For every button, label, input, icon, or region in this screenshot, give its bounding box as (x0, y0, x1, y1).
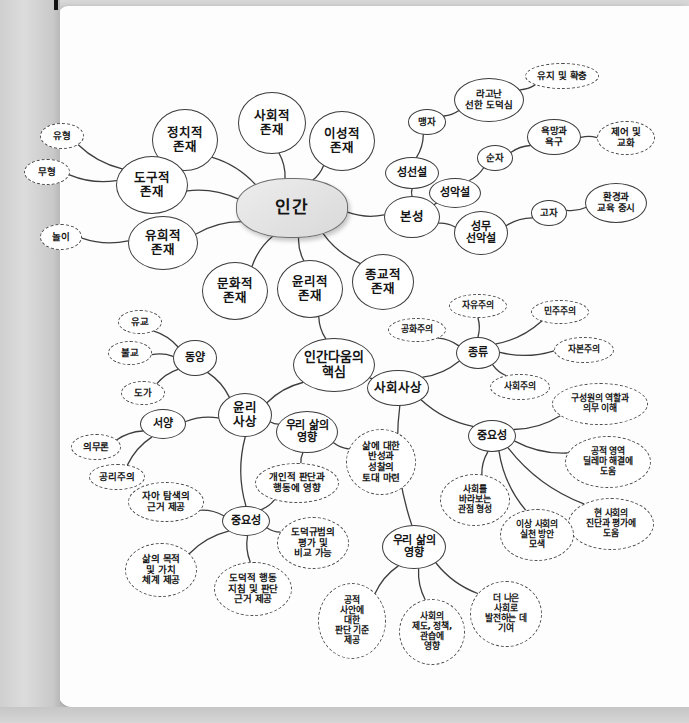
mindmap-node-n-innate[interactable]: 라고난 선한 도덕심 (454, 78, 524, 122)
mindmap-node-n-e-l2[interactable]: 개인적 판단과 행동에 영향 (255, 463, 339, 503)
mindmap-node-n-e-i3[interactable]: 도덕적 행동 지침 및 판단 근거 제공 (214, 562, 292, 616)
mindmap-node-human[interactable]: 인간 (236, 178, 348, 238)
connector (157, 369, 178, 383)
mindmap-node-n-religion[interactable]: 종교적 존재 (352, 254, 414, 310)
mindmap-node-n-buddhism[interactable]: 불교 (108, 341, 152, 365)
mindmap-node-n-e-l1[interactable]: 삶에 대한 반성과 성찰의 토대 마련 (346, 429, 416, 495)
mindmap-node-n-keep[interactable]: 유지 및 확충 (525, 63, 599, 89)
mindmap-node-n-rational[interactable]: 이성적 존재 (309, 111, 375, 171)
mindmap-node-n-mencius[interactable]: 맹자 (408, 109, 446, 135)
connector (506, 218, 532, 226)
mindmap-node-n-nature[interactable]: 본성 (384, 196, 440, 238)
mindmap-node-n-confucian[interactable]: 유교 (118, 310, 162, 334)
mindmap-node-n-s-kind[interactable]: 종류 (456, 337, 500, 369)
mindmap-node-n-west[interactable]: 서양 (140, 409, 186, 439)
mindmap-node-n-e-import[interactable]: 중요성 (222, 506, 270, 536)
mindmap-node-n-s-i4[interactable]: 사회를 바라보는 관점 형성 (440, 474, 510, 526)
connector (82, 238, 128, 243)
mindmap-node-n-playn[interactable]: 놀이 (40, 224, 82, 250)
mindmap-node-n-s-import[interactable]: 중요성 (468, 420, 516, 452)
node-label: 무형 (38, 167, 56, 178)
mindmap-node-n-s-i2[interactable]: 공적 영역 딜레마 해결에 도움 (565, 436, 651, 488)
node-label: 사회적 존재 (254, 109, 289, 137)
mindmap-node-h-core[interactable]: 인간다움의 핵심 (293, 338, 375, 392)
mindmap-node-n-neutral[interactable]: 성무 선악설 (454, 211, 508, 255)
mindmap-node-n-e-l3[interactable]: 도덕규범의 평가 및 비교 가능 (277, 517, 349, 569)
node-label: 맹자 (418, 117, 436, 128)
connector (117, 431, 143, 440)
node-label: 문화적 존재 (217, 277, 252, 305)
mindmap-node-n-utilitarian[interactable]: 공리주의 (89, 464, 145, 490)
mindmap-node-n-xunzi[interactable]: 순자 (477, 145, 513, 171)
mindmap-node-n-culture[interactable]: 문화적 존재 (202, 262, 268, 320)
mindmap-node-n-visible[interactable]: 유형 (40, 123, 84, 149)
connector (500, 351, 554, 356)
mindmap-node-n-k2[interactable]: 공화주의 (388, 318, 446, 342)
connector (319, 317, 326, 339)
mindmap-node-n-s-i1[interactable]: 구성원의 역할과 의무 이해 (552, 383, 648, 425)
connector (267, 383, 303, 403)
mindmap-node-n-social-thought[interactable]: 사회사상 (367, 370, 429, 406)
mindmap-node-n-tool[interactable]: 도구적 존재 (116, 156, 188, 214)
connector (515, 441, 568, 453)
node-label: 순자 (486, 153, 504, 164)
connector (493, 365, 506, 376)
node-label: 윤리적 존재 (292, 275, 327, 303)
connector (299, 238, 304, 261)
mindmap-node-n-good[interactable]: 성선설 (385, 157, 439, 189)
connector (241, 437, 246, 506)
node-label: 유희적 존재 (145, 229, 180, 257)
node-label: 사회사상 (374, 381, 421, 395)
mindmap-node-n-daoism[interactable]: 도가 (121, 381, 165, 405)
connector (252, 236, 273, 266)
mindmap-node-n-k1[interactable]: 자유주의 (449, 294, 507, 318)
mindmap-node-n-social[interactable]: 사회적 존재 (238, 92, 306, 154)
node-label: 중요성 (231, 515, 260, 527)
connector (323, 233, 360, 263)
mindmap-node-n-sl2[interactable]: 사회의 제도, 정책, 관습에 영향 (399, 599, 465, 665)
connector (514, 416, 560, 430)
connector (128, 437, 152, 465)
mindmap-node-n-s-i3[interactable]: 현 사회의 진단과 평가에 도움 (568, 498, 654, 550)
mindmap-node-n-gaozi[interactable]: 고자 (531, 200, 567, 226)
mindmap-node-n-s-life[interactable]: 우리 삶의 영향 (382, 525, 446, 569)
mindmap-node-n-k5[interactable]: 사회주의 (490, 374, 550, 400)
connector (196, 222, 242, 234)
connector (247, 536, 250, 562)
mindmap-node-n-play[interactable]: 유희적 존재 (128, 216, 198, 270)
node-label: 공리주의 (99, 472, 134, 483)
connector (423, 361, 459, 377)
mindmap-node-n-k4[interactable]: 자본주의 (554, 337, 614, 363)
mindmap-node-n-sl1[interactable]: 공적 사안에 대한 판단 기준 제공 (318, 583, 386, 659)
mindmap-node-n-k3[interactable]: 민주주의 (531, 300, 589, 324)
mindmap-node-n-e-i2[interactable]: 삶의 목적 및 가치 체계 제공 (125, 543, 197, 597)
mindmap-node-n-e-i1[interactable]: 자아 탐색의 근거 제공 (128, 482, 204, 522)
connector (482, 452, 488, 475)
node-label: 구성원의 역할과 의무 이해 (571, 394, 628, 414)
node-label: 도구적 존재 (134, 171, 169, 199)
mindmap-node-n-desire[interactable]: 욕망과 욕구 (527, 119, 581, 155)
mindmap-node-n-invisible[interactable]: 무형 (24, 159, 70, 185)
mindmap-node-n-sl3[interactable]: 더 나은 사회로 발전하는 데 기여 (470, 581, 542, 647)
mindmap-node-n-control[interactable]: 제어 및 교화 (597, 121, 655, 155)
node-label: 공적 사안에 대한 판단 기준 제공 (335, 596, 369, 645)
connector (301, 453, 303, 463)
connector (261, 500, 274, 510)
connector (212, 157, 256, 185)
mindmap-node-n-deontology[interactable]: 의무론 (71, 434, 121, 460)
mindmap-node-n-ethic-being[interactable]: 윤리적 존재 (277, 260, 343, 318)
node-label: 사회의 제도, 정책, 관습에 영향 (412, 612, 452, 651)
mindmap-node-n-east[interactable]: 동양 (173, 340, 217, 376)
node-label: 유형 (53, 131, 71, 142)
mindmap-node-n-env[interactable]: 환경과 교육 중시 (585, 183, 647, 223)
mindmap-node-n-s-i5[interactable]: 이상 사회의 실천 방안 모색 (500, 509, 574, 561)
mindmap-node-n-evil[interactable]: 성악설 (429, 178, 481, 208)
node-label: 중요성 (477, 430, 506, 442)
node-label: 우리 삶의 영향 (393, 535, 436, 560)
mindmap-node-n-e-life[interactable]: 우리 삶의 영향 (276, 411, 338, 453)
node-label: 삶의 목적 및 가치 체계 제공 (142, 554, 180, 586)
connector (478, 318, 479, 337)
mindmap-node-n-ethic-thought[interactable]: 윤리 사상 (218, 393, 272, 437)
connector (375, 566, 398, 593)
node-label: 사회를 바라보는 관점 형성 (458, 485, 492, 515)
